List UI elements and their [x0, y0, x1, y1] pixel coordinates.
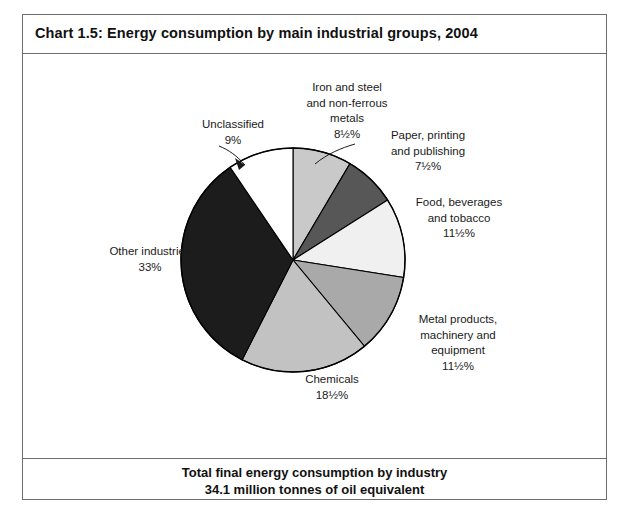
- pie-value-chemicals: 18½%: [271, 388, 393, 404]
- pie-label-unclassified: Unclassified 9%: [175, 117, 291, 148]
- chart-title: Chart 1.5: Energy consumption by main in…: [35, 25, 478, 41]
- pie-value-unclassified: 9%: [175, 133, 291, 149]
- pie-label-metal-line3: equipment: [431, 344, 485, 356]
- footer-line-2: 34.1 million tonnes of oil equivalent: [23, 481, 606, 498]
- footer-line-1: Total final energy consumption by indust…: [23, 464, 606, 481]
- pie-label-food-line2: and tobacco: [428, 212, 491, 224]
- pie-label-metal-line1: Metal products,: [419, 313, 498, 325]
- pie-value-other: 33%: [85, 260, 215, 276]
- pie-label-other-line1: Other industries: [109, 245, 190, 257]
- pie-label-other-industries: Other industries 33%: [85, 244, 215, 275]
- pie-label-paper-line2: and publishing: [391, 145, 465, 157]
- pie-label-metal-line2: machinery and: [420, 329, 495, 341]
- pie-label-food-beverages-tobacco: Food, beverages and tobacco 11½%: [394, 195, 524, 242]
- pie-label-food-line1: Food, beverages: [416, 196, 502, 208]
- pie-label-metal-products-machinery: Metal products, machinery and equipment …: [397, 312, 519, 374]
- pie-label-chemicals-line1: Chemicals: [305, 373, 359, 385]
- pie-label-iron-line3: metals: [330, 112, 364, 124]
- chart-frame: Chart 1.5: Energy consumption by main in…: [22, 14, 607, 500]
- pie-chart-plot-area: Iron and steel and non-ferrous metals 8½…: [23, 54, 606, 458]
- pie-value-metal: 11½%: [397, 359, 519, 375]
- pie-label-chemicals: Chemicals 18½%: [271, 372, 393, 403]
- pie-label-iron-line2: and non-ferrous: [306, 97, 387, 109]
- pie-value-paper: 7½%: [367, 159, 489, 175]
- pie-label-paper-printing-publishing: Paper, printing and publishing 7½%: [367, 128, 489, 175]
- pie-label-paper-line1: Paper, printing: [391, 129, 465, 141]
- chart-footer: Total final energy consumption by indust…: [23, 464, 606, 498]
- pie-label-iron-line1: Iron and steel: [312, 81, 382, 93]
- pie-label-unclassified-line1: Unclassified: [202, 118, 264, 130]
- pie-value-food: 11½%: [394, 226, 524, 242]
- footer-divider: [23, 458, 606, 459]
